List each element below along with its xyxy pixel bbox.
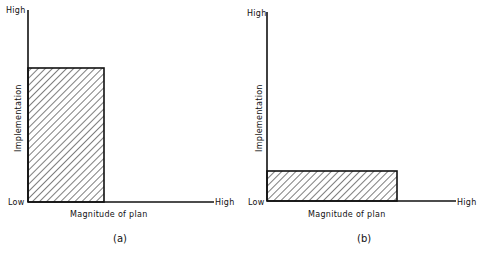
caption-b: (b)	[357, 233, 371, 244]
bar-a	[28, 68, 104, 202]
x-axis-label-a: Magnitude of plan	[70, 210, 148, 219]
panel-b: High Low High Implementation Magnitude o…	[247, 9, 477, 244]
y-high-label-a: High	[6, 6, 26, 15]
x-high-label-b: High	[457, 198, 477, 207]
x-axis-label-b: Magnitude of plan	[308, 210, 386, 219]
y-low-label-a: Low	[8, 198, 25, 207]
panel-a: High Low High Implementation Magnitude o…	[6, 6, 235, 244]
y-low-label-b: Low	[248, 198, 265, 207]
x-high-label-a: High	[215, 198, 235, 207]
y-axis-label-b: Implementation	[255, 84, 264, 152]
y-high-label-b: High	[247, 9, 267, 18]
caption-a: (a)	[113, 233, 127, 244]
bar-b	[267, 171, 397, 201]
diagram-canvas: High Low High Implementation Magnitude o…	[0, 0, 478, 254]
y-axis-label-a: Implementation	[14, 84, 23, 152]
